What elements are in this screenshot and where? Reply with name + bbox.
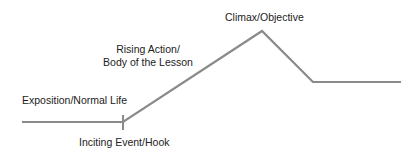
exposition-label: Exposition/Normal Life	[22, 94, 127, 107]
rising-action-line2: Body of the Lesson	[98, 56, 198, 69]
climax-label: Climax/Objective	[225, 11, 304, 24]
inciting-event-label: Inciting Event/Hook	[79, 136, 169, 149]
plot-line	[22, 31, 401, 122]
rising-action-label: Rising Action/ Body of the Lesson	[98, 43, 198, 69]
rising-action-line1: Rising Action/	[98, 43, 198, 56]
plot-diagram	[0, 0, 419, 160]
